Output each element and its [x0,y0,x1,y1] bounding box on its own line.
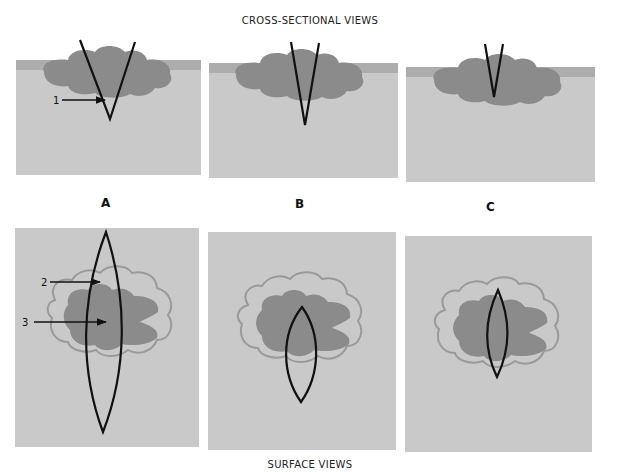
cross-section-b [209,42,398,178]
surface-c [405,236,592,452]
panel-label-a: A [101,196,110,210]
label-3: 3 [22,317,28,328]
cross-section-a: 1 [16,40,201,175]
diagram-canvas: 1 2 3 [0,0,620,472]
surface-a: 2 3 [15,228,199,447]
cross-section-c [406,44,595,182]
surface-b [208,232,396,450]
surface-views-title: SURFACE VIEWS [0,459,620,470]
panel-label-c: C [486,200,495,214]
panel-label-b: B [295,197,304,211]
label-1: 1 [53,95,59,106]
label-2: 2 [41,277,47,288]
